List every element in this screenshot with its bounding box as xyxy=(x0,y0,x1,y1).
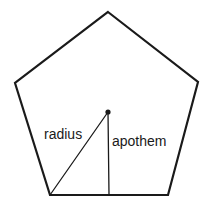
radius-label: radius xyxy=(44,126,82,142)
pentagon-diagram-canvas: radius apothem xyxy=(0,0,211,208)
center-point-dot xyxy=(105,109,110,114)
pentagon-diagram: radius apothem xyxy=(0,0,211,208)
apothem-label: apothem xyxy=(112,133,166,149)
